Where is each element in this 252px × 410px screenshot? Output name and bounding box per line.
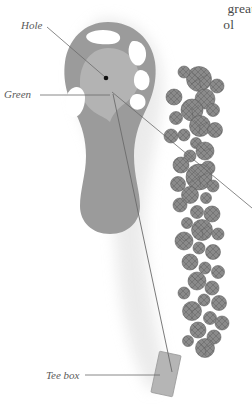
callout-label-green: Green [4,88,31,100]
diagram-canvas [0,0,252,410]
hole-marker [104,76,109,81]
callout-label-hole: Hole [21,19,42,31]
body-text-line-2: ol [223,17,234,33]
golf-hole-diagram: great ol Hole Green Tee box [0,0,252,410]
tree-cluster [164,66,229,358]
callout-label-tee-box: Tee box [46,369,80,381]
body-text-line-1: great [228,1,252,17]
